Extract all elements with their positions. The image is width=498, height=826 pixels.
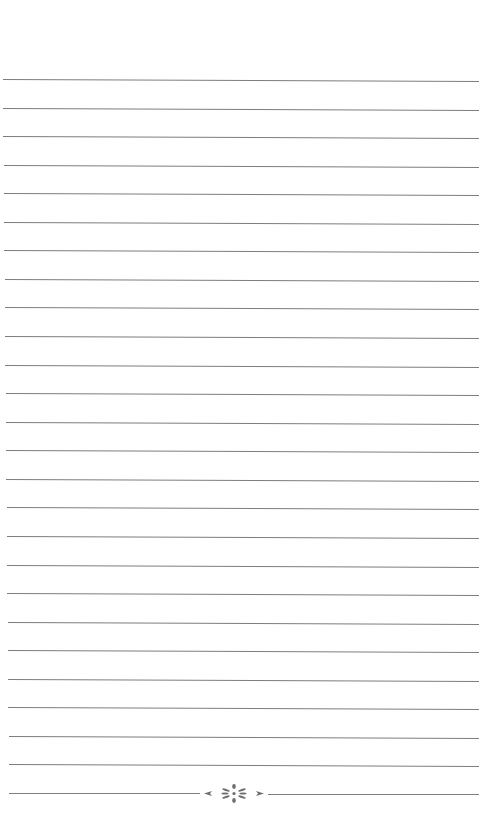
ruled-line: [6, 479, 479, 482]
ruled-line: [7, 565, 479, 568]
ruled-line: [7, 536, 479, 539]
ruled-line: [5, 307, 479, 310]
ruled-line: [9, 764, 479, 767]
ruled-line: [7, 593, 479, 596]
notebook-page: [0, 0, 498, 826]
ruled-line: [4, 193, 479, 196]
ruled-line: [9, 736, 479, 739]
ruled-line: [6, 393, 479, 396]
ruled-line: [3, 108, 479, 111]
flourish-divider-icon: [200, 781, 270, 805]
ruled-line: [4, 222, 479, 225]
ruled-line: [7, 507, 479, 510]
ruled-line: [5, 279, 479, 282]
ruled-line: [3, 79, 479, 82]
ruled-line: [268, 794, 479, 795]
ruled-line: [5, 336, 479, 339]
ruled-line: [6, 422, 479, 425]
ruled-line: [8, 679, 479, 682]
ruled-line: [5, 365, 479, 368]
ruled-line: [6, 450, 479, 453]
ruled-line: [9, 793, 200, 794]
ruled-line: [8, 622, 479, 625]
ruled-line: [4, 250, 479, 253]
ruled-line: [8, 650, 479, 653]
ruled-line: [4, 165, 479, 168]
ruled-line: [3, 136, 479, 139]
ruled-line: [8, 707, 479, 710]
